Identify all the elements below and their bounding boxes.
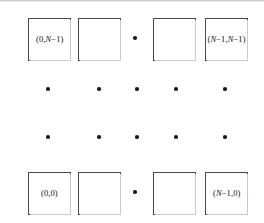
cell-1-N-1 [78, 18, 121, 61]
dot-row-upper-dot-0 [46, 87, 50, 91]
cell-N-1-0-label: (N−1,0) [213, 189, 240, 198]
dot-row-lower-dot-1 [97, 135, 101, 139]
dot-row-upper-dot-1 [97, 87, 101, 91]
dot-row-upper-dot-4 [223, 87, 227, 91]
dot-row-upper-dot-3 [174, 87, 178, 91]
ellipsis-dot-bottom-row [133, 190, 137, 194]
cell-N-1-N-1-label: (N−1,N−1) [208, 35, 246, 44]
dot-row-lower-dot-0 [46, 135, 50, 139]
cell-0-0-label: (0,0) [41, 189, 58, 198]
dot-row-lower-dot-3 [174, 135, 178, 139]
scan-edge-artifact [0, 0, 264, 2]
cell-N-2-0 [153, 172, 196, 215]
dot-row-lower-dot-2 [135, 135, 139, 139]
dot-row-upper-dot-2 [135, 87, 139, 91]
cell-N-2-N-1 [153, 18, 196, 61]
dot-row-lower-dot-4 [223, 135, 227, 139]
ellipsis-dot-top-row [133, 36, 137, 40]
grid-cell-index-diagram: (0,N−1)(N−1,N−1)(0,0)(N−1,0) [0, 0, 264, 223]
cell-1-0 [78, 172, 121, 215]
cell-0-N-1-label: (0,N−1) [36, 35, 63, 44]
